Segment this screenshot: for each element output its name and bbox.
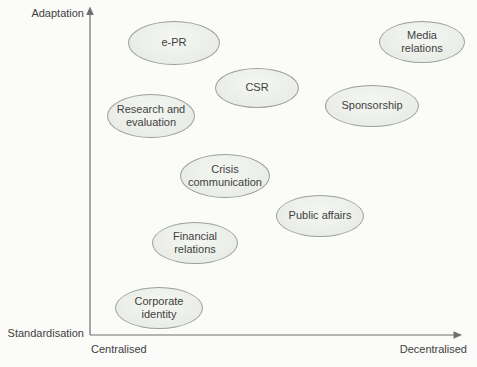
y-axis-bottom-label: Standardisation: [0, 327, 84, 339]
x-axis-arrowhead-icon: [454, 331, 463, 339]
bubble-corporate-identity: Corporateidentity: [115, 287, 203, 329]
bubble-label-line: evaluation: [126, 116, 176, 130]
bubble-label-line: Media: [407, 29, 437, 43]
bubble-sponsorship: Sponsorship: [325, 85, 419, 127]
positioning-map-figure: Adaptation Standardisation Centralised D…: [0, 0, 477, 367]
y-axis-arrowhead-icon: [86, 7, 94, 16]
bubble-e-pr: e-PR: [128, 21, 220, 65]
bubble-label-line: identity: [142, 308, 177, 322]
bubble-label-line: e-PR: [161, 36, 186, 50]
bubble-label-line: Sponsorship: [341, 99, 402, 113]
bubble-label-line: relations: [401, 42, 443, 56]
y-axis-top-label: Adaptation: [0, 7, 84, 19]
bubble-public-affairs: Public affairs: [276, 195, 364, 237]
bubble-label-line: Public affairs: [289, 209, 352, 223]
bubble-label-line: Crisis: [211, 163, 239, 177]
bubble-media-relations: Mediarelations: [379, 21, 465, 63]
bubble-financial-relations: Financialrelations: [152, 222, 238, 264]
bubble-label-line: relations: [174, 243, 216, 257]
bubble-label-line: communication: [188, 176, 262, 190]
bubble-label-line: CSR: [245, 81, 268, 95]
x-axis-right-label: Decentralised: [360, 343, 467, 355]
bubble-research-and-evaluation: Research andevaluation: [107, 94, 195, 138]
bubble-crisis-communication: Crisiscommunication: [180, 154, 270, 198]
bubble-label-line: Financial: [173, 230, 217, 244]
bubble-label-line: Corporate: [135, 295, 184, 309]
bubble-csr: CSR: [215, 68, 299, 108]
bubble-label-line: Research and: [117, 103, 186, 117]
x-axis-left-label: Centralised: [91, 343, 147, 355]
